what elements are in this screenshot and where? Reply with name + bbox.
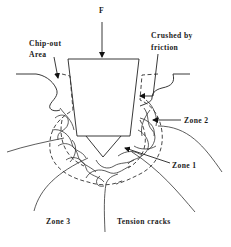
- zone3-label: Zone 3: [46, 217, 71, 226]
- zone2-label: Zone 2: [184, 116, 209, 125]
- force-label: F: [99, 6, 104, 15]
- surface-line-left: [16, 74, 60, 111]
- indenter-tip: [86, 136, 121, 157]
- tension-cracks-label: Tension cracks: [117, 217, 171, 226]
- crushed-label-line2: friction: [151, 43, 179, 52]
- chip-out-label-line2: Area: [29, 50, 47, 59]
- zone1-label: Zone 1: [172, 161, 197, 170]
- indentation-diagram: F Chip-out Area Crushed by friction Zone…: [0, 0, 231, 247]
- chip-out-label-line1: Chip-out: [29, 39, 61, 48]
- indenter-body: [68, 59, 139, 136]
- tension-crack-bottom: [104, 174, 118, 232]
- chip-out-leader: [54, 57, 58, 78]
- tension-crack-left: [7, 138, 64, 152]
- tension-crack-lower-left: [34, 158, 88, 211]
- crushed-label-line1: Crushed by: [151, 31, 193, 40]
